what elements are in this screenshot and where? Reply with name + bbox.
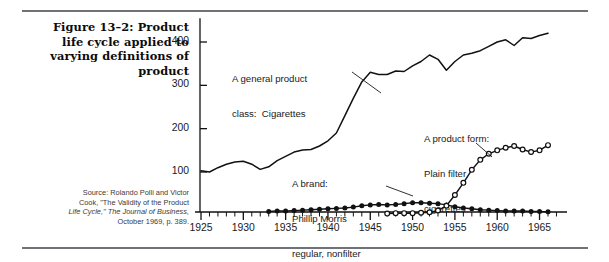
- figure-container: Figure 13–2: Product life cycle applied …: [0, 0, 609, 262]
- y-axis-tick-label-400: 400: [159, 35, 189, 46]
- y-axis-tick-label-200: 200: [159, 122, 189, 133]
- leader-line-product-form: [476, 143, 492, 157]
- x-axis-tick-label-1945: 1945: [350, 222, 390, 233]
- chart-series: [201, 33, 551, 216]
- leader-line-general-class: [352, 72, 381, 93]
- x-axis-tick-label-1930: 1930: [223, 222, 263, 233]
- chart-axes: [195, 18, 567, 220]
- leader-line-brand: [386, 186, 413, 196]
- y-axis-tick-label-300: 300: [159, 78, 189, 89]
- y-axis-tick-label-100: 100: [159, 165, 189, 176]
- x-axis-tick-label-1960: 1960: [477, 222, 517, 233]
- x-axis-tick-label-1965: 1965: [520, 222, 560, 233]
- annotation-leader-lines: [352, 72, 492, 196]
- x-axis-tick-label-1950: 1950: [393, 222, 433, 233]
- x-axis-tick-label-1925: 1925: [181, 222, 221, 233]
- x-axis-tick-label-1955: 1955: [435, 222, 475, 233]
- x-axis-tick-label-1940: 1940: [308, 222, 348, 233]
- x-axis-tick-label-1935: 1935: [266, 222, 306, 233]
- series-2: [385, 143, 551, 216]
